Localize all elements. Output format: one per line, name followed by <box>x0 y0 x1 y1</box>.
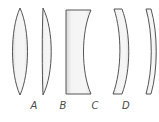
lens-b-plano-convex-lens <box>42 8 51 95</box>
lens-shape-group <box>13 8 157 95</box>
lens-d-meniscus-lens <box>113 9 129 94</box>
lens-diagram: A B C D <box>0 0 159 122</box>
lens-c-plano-concave-lens <box>66 10 91 94</box>
lens-shapes-svg <box>0 0 159 122</box>
lens-e-meniscus-lens-cropped <box>146 9 156 94</box>
lens-a-biconvex-lens <box>13 8 28 95</box>
